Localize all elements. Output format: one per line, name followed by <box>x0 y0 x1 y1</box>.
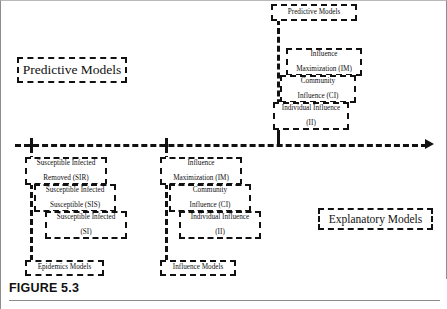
sis-line1: Susceptible Infected <box>44 187 106 195</box>
caption-area: FIGURE 5.3 <box>1 279 447 309</box>
upper-box-individual-influence: Individual Influence (II) <box>273 102 349 130</box>
influence-box-ii: Individual Influence (II) <box>179 211 261 239</box>
figure-frame: Predictive Models Explanatory Models Pre… <box>0 0 447 309</box>
arrow-right-icon <box>425 139 434 149</box>
upper-im-line2: Maximization (IM) <box>294 66 354 74</box>
ci-line2: Influence (CI) <box>188 202 233 210</box>
si-line2: (SI) <box>55 229 117 237</box>
upper-ii-line1: Individual Influence <box>280 105 342 113</box>
im-line1: Influence <box>171 160 231 168</box>
figure-caption: FIGURE 5.3 <box>9 281 79 295</box>
predictive-models-pole-label: Predictive Models <box>17 57 127 83</box>
influence-box-ci: Community Influence (CI) <box>169 184 251 212</box>
im-line2: Maximization (IM) <box>171 175 231 183</box>
ii-line2: (II) <box>189 229 251 237</box>
diagram-canvas: Predictive Models Explanatory Models Pre… <box>1 1 447 279</box>
influence-box-im: Influence Maximization (IM) <box>160 157 242 185</box>
explanatory-models-pole-label: Explanatory Models <box>318 208 433 230</box>
upper-box-influence-maximization: Influence Maximization (IM) <box>286 48 362 76</box>
ii-line1: Individual Influence <box>189 214 251 222</box>
upper-ci-line1: Community <box>296 78 341 86</box>
upper-box-community-influence: Community Influence (CI) <box>280 75 356 103</box>
sir-line1: Susceptible Infected <box>35 160 97 168</box>
sir-line2: Removed (SIR) <box>35 175 97 183</box>
upper-cluster-title-box: Predictive Models <box>271 4 357 21</box>
axis-line <box>15 144 427 147</box>
epidemics-box-sir: Susceptible Infected Removed (SIR) <box>25 157 107 185</box>
epidemics-models-axis-label: Epidemics Models <box>25 260 104 276</box>
influence-models-axis-label: Influence Models <box>160 260 236 276</box>
upper-ii-line2: (II) <box>280 120 342 128</box>
ci-line1: Community <box>188 187 233 195</box>
si-line1: Susceptible Infected <box>55 214 117 222</box>
caption-rule <box>9 300 440 301</box>
epidemics-box-si: Susceptible Infected (SI) <box>45 211 127 239</box>
upper-im-line1: Influence <box>294 51 354 59</box>
sis-line2: Susceptible (SIS) <box>44 202 106 210</box>
epidemics-box-sis: Susceptible Infected Susceptible (SIS) <box>34 184 116 212</box>
upper-ci-line2: Influence (CI) <box>296 93 341 101</box>
